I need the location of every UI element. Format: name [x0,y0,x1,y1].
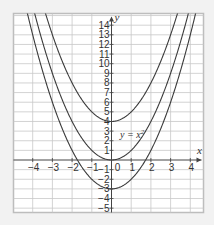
annotation-text: y = x [119,129,141,140]
x-tick-label: −4 [28,162,40,173]
y-tick-label: −1 [98,164,110,175]
y-tick-label: 5 [104,106,110,117]
y-tick-label: 7 [104,87,110,98]
y-tick-label: 12 [98,39,110,50]
y-tick-label: 10 [98,58,110,69]
y-tick-label: 11 [99,49,110,60]
y-tick-label: −2 [98,174,110,185]
y-tick-label: −5 [98,203,110,214]
y-tick-label: 8 [104,77,110,88]
x-tick-label: 3 [169,162,175,173]
y-tick-label: 2 [104,135,110,146]
y-axis-label: y [114,11,120,23]
x-tick-label: 1 [129,162,135,173]
y-tick-label: 14 [98,20,110,31]
y-tick-label: 3 [104,126,110,137]
y-tick-label: −3 [98,183,110,194]
y-tick-label: 13 [98,29,110,40]
x-tick-label: 2 [149,162,155,173]
chart: −4−3−2−101234−5−4−3−2−112345678910111213… [0,0,214,225]
y-tick-label: 4 [104,116,110,127]
x-tick-label: 4 [189,162,195,173]
annotation-superscript: 2 [141,128,145,136]
y-tick-label: 9 [104,68,110,79]
y-tick-label: −4 [98,193,110,204]
x-axis-label: x [196,144,202,156]
y-tick-label: 6 [104,97,110,108]
x-tick-label: −2 [67,162,79,173]
x-tick-label: −3 [48,162,60,173]
y-tick-label: 1 [104,145,110,156]
x-tick-label: 0 [115,162,121,173]
